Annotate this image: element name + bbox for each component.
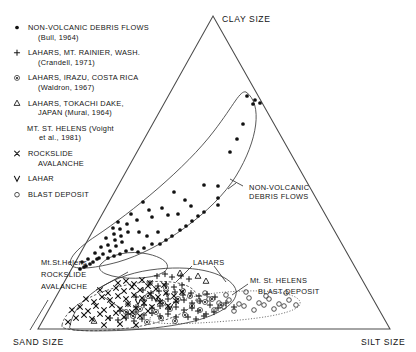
data-point-cross-x (74, 316, 79, 321)
data-point-filled-dot (99, 245, 103, 249)
data-point-open-circle (207, 297, 212, 302)
legend-item-6[interactable]: LAHAR (14, 174, 54, 183)
data-point-cross-x (106, 291, 111, 296)
data-point-filled-dot (251, 102, 255, 106)
data-point-filled-dot (170, 234, 174, 238)
data-point-cross-x (116, 281, 121, 286)
data-point-filled-dot (141, 200, 145, 204)
data-point-filled-dot (176, 212, 180, 216)
data-point-filled-dot (15, 26, 19, 30)
figure-canvas: CLAY SIZE SAND SIZE SILT SIZE (0, 0, 416, 352)
data-point-cross-x (102, 323, 107, 328)
data-point-cross-x (148, 292, 153, 297)
data-point-filled-dot (147, 208, 151, 212)
annot-nvdf-line2: DEBRIS FLOWS (249, 192, 308, 201)
data-point-cross-x (110, 303, 115, 308)
data-point-circled-dot (15, 75, 20, 80)
data-point-open-circle (294, 303, 299, 308)
data-point-cross-x (86, 309, 91, 314)
data-point-filled-dot (196, 214, 200, 218)
data-point-vee (14, 176, 19, 181)
data-point-triangle (14, 100, 20, 105)
series-filled-dot (78, 94, 262, 271)
legend-item-0[interactable]: NON-VOLCANIC DEBRIS FLOWS(Bull, 1964) (15, 23, 149, 42)
data-point-filled-dot (160, 206, 164, 210)
annot-blast-line1: Mt. St. HELENS (250, 276, 307, 285)
legend-item-6-line-0: LAHAR (28, 174, 54, 183)
data-point-filled-dot (216, 196, 220, 200)
data-point-filled-dot (86, 257, 90, 261)
data-point-filled-dot (202, 183, 206, 187)
data-point-filled-dot (124, 249, 128, 253)
data-point-filled-dot (101, 252, 105, 256)
annotation-non-volcanic-debris-flows: NON-VOLCANIC DEBRIS FLOWS (249, 183, 310, 201)
data-point-cross-x (116, 294, 121, 299)
data-point-open-circle (262, 303, 267, 308)
annot-nvdf-line1: NON-VOLCANIC (249, 183, 310, 192)
legend-item-3-line-1: JAPAN (Murai, 1964) (38, 108, 112, 117)
data-point-open-circle (224, 293, 229, 298)
data-point-circled-dot (173, 319, 178, 324)
data-point-filled-dot (150, 215, 154, 219)
data-point-plus (165, 311, 170, 316)
data-point-filled-dot (156, 230, 160, 234)
annot-blast-line2: BLAST DEPOSIT (258, 287, 320, 296)
data-point-filled-dot (130, 247, 134, 251)
data-point-open-circle (282, 304, 287, 309)
data-point-filled-dot (137, 230, 141, 234)
legend-item-7-line-0: BLAST DEPOSIT (28, 190, 89, 199)
legend-item-3-line-0: LAHARS, TOKACHI DAKE, (28, 99, 124, 108)
data-point-filled-dot (183, 198, 187, 202)
legend-item-5[interactable]: ROCKSLIDEAVALANCHE (15, 149, 84, 168)
data-point-filled-dot (253, 98, 257, 102)
data-point-triangle (203, 278, 209, 283)
legend: NON-VOLCANIC DEBRIS FLOWS(Bull, 1964)LAH… (14, 23, 149, 199)
data-point-filled-dot (104, 236, 108, 240)
legend-item-1[interactable]: LAHARS, MT. RAINIER, WASH.(Crandell, 197… (14, 48, 140, 67)
data-point-filled-dot (235, 137, 239, 141)
legend-item-7[interactable]: BLAST DEPOSIT (15, 190, 90, 199)
data-point-plus (156, 288, 161, 293)
legend-item-2[interactable]: LAHARS, IRAZU, COSTA RICA(Waldron, 1967) (15, 73, 139, 92)
data-point-open-circle (227, 298, 232, 303)
data-point-circled-dot (145, 320, 150, 325)
data-point-open-circle (247, 296, 252, 301)
legend-item-2-line-0: LAHARS, IRAZU, COSTA RICA (28, 73, 138, 82)
data-point-circled-dot (154, 310, 159, 315)
data-point-cross-x (102, 308, 107, 313)
data-point-filled-dot (164, 238, 168, 242)
data-point-filled-dot (120, 240, 124, 244)
data-point-plus (181, 297, 186, 302)
data-point-plus (169, 274, 174, 279)
data-point-open-circle (272, 307, 277, 312)
data-point-filled-dot (112, 232, 116, 236)
data-point-filled-dot (111, 226, 115, 230)
data-point-filled-dot (112, 254, 116, 258)
data-point-filled-dot (106, 256, 110, 260)
annot-rockslide-line3: AVALANCHE (41, 282, 87, 291)
legend-item-3[interactable]: LAHARS, TOKACHI DAKE,JAPAN (Murai, 1964) (14, 99, 124, 118)
data-point-filled-dot (228, 150, 232, 154)
data-point-cross-x (172, 294, 177, 299)
legend-item-4[interactable]: MT. ST. HELENS (Voightet al., 1981) (27, 124, 114, 143)
data-point-cross-x (98, 288, 103, 293)
legend-item-4-line-1: et al., 1981) (39, 133, 81, 142)
data-point-plus (178, 273, 183, 278)
data-point-cross-x (114, 286, 119, 291)
data-point-plus (155, 283, 160, 288)
data-point-open-circle (242, 304, 247, 309)
data-point-filled-dot (136, 250, 140, 254)
data-point-cross-x (122, 289, 127, 294)
ternary-diagram-figure: CLAY SIZE SAND SIZE SILT SIZE (0, 0, 416, 352)
data-point-filled-dot (126, 230, 130, 234)
data-point-cross-x (15, 151, 20, 156)
data-point-cross-x (118, 322, 123, 327)
data-point-plus (186, 276, 191, 281)
data-point-filled-dot (178, 228, 182, 232)
data-point-filled-dot (119, 234, 123, 238)
data-point-filled-dot (118, 252, 122, 256)
data-point-filled-dot (106, 243, 110, 247)
leader-rockslide (96, 272, 128, 290)
data-point-triangle (195, 273, 201, 278)
data-point-filled-dot (95, 257, 99, 261)
